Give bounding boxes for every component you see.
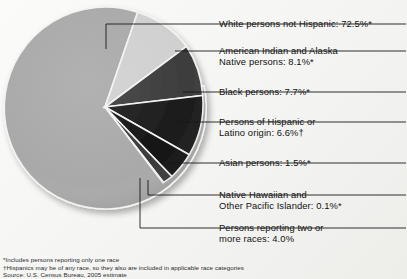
- footnotes-block: *Includes persons reporting only one rac…: [3, 256, 403, 279]
- callout-two-or-more-races: Persons reporting two or more races: 4.0…: [219, 222, 324, 245]
- callout-black-persons: Black persons: 7.7%*: [219, 86, 310, 97]
- footnote-hispanics: †Hispanics may be of any race, so they a…: [3, 264, 403, 272]
- callout-labels: White persons not Hispanic: 72.5%* Ameri…: [0, 0, 407, 279]
- callout-asian-persons: Asian persons: 1.5%*: [219, 157, 311, 168]
- callout-white-persons: White persons not Hispanic: 72.5%*: [219, 18, 372, 29]
- callout-native-hawaiian: Native Hawaiian and Other Pacific Island…: [219, 189, 342, 212]
- callout-american-indian: American Indian and Alaska Native person…: [219, 45, 338, 68]
- callout-hispanic-latino: Persons of Hispanic or Latino origin: 6.…: [219, 116, 316, 139]
- footnote-one-race: *Includes persons reporting only one rac…: [3, 256, 403, 264]
- footnote-source: Source: U.S. Census Bureau, 2005 estimat…: [3, 271, 403, 279]
- pie-chart-figure: White persons not Hispanic: 72.5%* Ameri…: [0, 0, 407, 279]
